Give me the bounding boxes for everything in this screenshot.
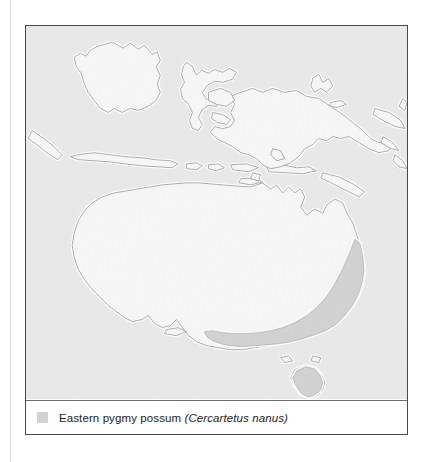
page-margin-rule <box>10 0 11 462</box>
range-swatch-icon <box>37 412 48 423</box>
map-legend: Eastern pygmy possum (Cercartetus nanus) <box>26 400 407 434</box>
map-panel <box>26 26 407 399</box>
distribution-map-figure: Eastern pygmy possum (Cercartetus nanus) <box>25 25 408 435</box>
legend-label: Eastern pygmy possum (Cercartetus nanus) <box>59 412 288 424</box>
legend-common-name: Eastern pygmy possum <box>59 412 181 424</box>
map-graphic <box>26 26 407 399</box>
figure-page: Eastern pygmy possum (Cercartetus nanus) <box>0 0 432 462</box>
legend-scientific-name: (Cercartetus nanus) <box>184 412 288 424</box>
